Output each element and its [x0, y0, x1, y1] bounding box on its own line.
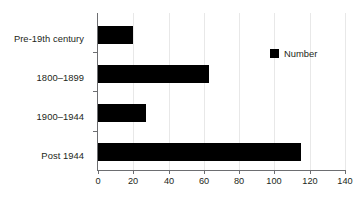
- legend-label-number: Number: [284, 48, 317, 59]
- x-axis-tick-100: [274, 170, 275, 174]
- bar-1900-1944: [98, 104, 146, 122]
- x-axis-tick-0: [98, 170, 99, 174]
- x-axis-label-40: 40: [154, 176, 184, 187]
- x-axis-label-120: 120: [295, 176, 325, 187]
- category-axis-labels: Pre-19th century 1800–1899 1900–1944 Pos…: [0, 13, 90, 170]
- x-axis-label-20: 20: [118, 176, 148, 187]
- x-axis-tick-60: [204, 170, 205, 174]
- x-axis-label-140: 140: [330, 176, 360, 187]
- x-axis-tick-80: [239, 170, 240, 174]
- x-axis-tick-120: [310, 170, 311, 174]
- x-axis-label-0: 0: [83, 176, 113, 187]
- y-axis-tick-1: [93, 52, 97, 53]
- category-label-1800-1899: 1800–1899: [0, 72, 84, 83]
- x-axis-tick-140: [345, 170, 346, 174]
- plot-area: 0 20 40 60 80 100 120 140 Number: [98, 13, 345, 170]
- gridline-120: [310, 13, 311, 170]
- x-axis-label-100: 100: [259, 176, 289, 187]
- x-axis-label-60: 60: [189, 176, 219, 187]
- x-axis-line: [97, 170, 345, 171]
- category-label-pre-19th-century: Pre-19th century: [0, 33, 84, 44]
- x-axis-tick-20: [133, 170, 134, 174]
- chart-legend: Number: [270, 48, 317, 59]
- category-label-post-1944: Post 1944: [0, 150, 84, 161]
- legend-swatch-icon: [270, 49, 279, 58]
- category-label-1900-1944: 1900–1944: [0, 111, 84, 122]
- bar-pre-19th-century: [98, 26, 133, 44]
- gridline-140: [345, 13, 346, 170]
- y-axis-tick-2: [93, 91, 97, 92]
- bar-1800-1899: [98, 65, 209, 83]
- bar-chart: Pre-19th century 1800–1899 1900–1944 Pos…: [0, 0, 361, 204]
- bar-post-1944: [98, 143, 301, 161]
- x-axis-label-80: 80: [224, 176, 254, 187]
- x-axis-tick-40: [169, 170, 170, 174]
- y-axis-tick-3: [93, 131, 97, 132]
